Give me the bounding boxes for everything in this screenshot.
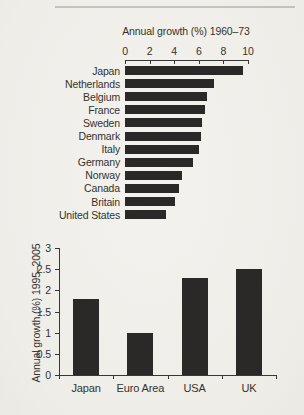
bottom-y-axis-tick — [55, 269, 59, 270]
top-chart-category-label: Canada — [0, 182, 120, 194]
bottom-chart-bar — [236, 269, 262, 375]
top-x-axis-tick — [199, 60, 200, 64]
top-chart-bar — [125, 171, 182, 180]
bottom-y-axis-tick — [55, 354, 59, 355]
bottom-y-axis-tick-label: 2 — [23, 284, 51, 296]
scan-artifact-line — [55, 6, 295, 8]
bottom-y-axis-tick-label: 0.5 — [23, 348, 51, 360]
top-chart-bar — [125, 118, 202, 127]
top-chart-category-label: Japan — [0, 65, 120, 77]
bottom-y-axis-tick-label: 2.5 — [23, 263, 51, 275]
top-chart-category-label: Britain — [0, 196, 120, 208]
top-x-axis-tick-label: 10 — [236, 45, 260, 57]
top-chart-category-label: Norway — [0, 169, 120, 181]
top-chart-bar — [125, 92, 207, 101]
top-x-axis-line — [125, 60, 248, 61]
bottom-chart-bar — [73, 299, 99, 375]
bottom-y-axis-tick-label: 0 — [23, 369, 51, 381]
top-chart-category-label: Italy — [0, 143, 120, 155]
top-chart-bar — [125, 210, 166, 219]
bottom-chart-bar — [182, 278, 208, 375]
bottom-chart-category-label: UK — [217, 382, 281, 394]
bottom-x-axis-tick — [168, 375, 169, 379]
top-chart-category-label: Sweden — [0, 117, 120, 129]
bottom-y-axis-tick-label: 1 — [23, 327, 51, 339]
bottom-x-axis-tick — [222, 375, 223, 379]
top-chart-bar — [125, 66, 243, 75]
top-x-axis-tick-label: 6 — [187, 45, 211, 57]
bottom-y-axis-tick-label: 3 — [23, 242, 51, 254]
top-chart-bar — [125, 197, 175, 206]
top-chart-category-label: Denmark — [0, 130, 120, 142]
top-chart-category-label: Germany — [0, 156, 120, 168]
top-x-axis-tick-label: 2 — [138, 45, 162, 57]
top-chart-bar — [125, 145, 199, 154]
top-chart-category-label: Netherlands — [0, 78, 120, 90]
bottom-y-axis-tick — [55, 248, 59, 249]
top-x-axis-tick — [223, 60, 224, 64]
top-x-axis-tick — [150, 60, 151, 64]
bottom-x-axis-tick — [59, 375, 60, 379]
top-chart-bar — [125, 158, 193, 167]
top-chart-bar — [125, 105, 205, 114]
bottom-y-axis-tick-label: 1.5 — [23, 306, 51, 318]
top-chart-title: Annual growth (%) 1960–73 — [64, 25, 304, 38]
bottom-x-axis-tick — [276, 375, 277, 379]
top-chart-category-label: United States — [0, 209, 120, 221]
top-x-axis-tick-label: 8 — [211, 45, 235, 57]
bottom-y-axis-line — [59, 248, 60, 376]
top-chart-bar — [125, 79, 214, 88]
growth-comparison-figure: Annual growth (%) 1960–73 Annual growth … — [0, 0, 304, 415]
bottom-y-axis-tick — [55, 312, 59, 313]
top-x-axis-tick-label: 4 — [162, 45, 186, 57]
bottom-x-axis-tick — [113, 375, 114, 379]
top-chart-bar — [125, 132, 201, 141]
top-x-axis-tick — [248, 60, 249, 64]
top-x-axis-tick — [174, 60, 175, 64]
top-x-axis-tick-label: 0 — [113, 45, 137, 57]
top-chart-category-label: Belgium — [0, 91, 120, 103]
top-x-axis-tick — [125, 60, 126, 64]
top-chart-bar — [125, 184, 179, 193]
bottom-chart-bar — [127, 333, 153, 375]
bottom-y-axis-tick — [55, 290, 59, 291]
bottom-y-axis-tick — [55, 333, 59, 334]
top-chart-category-label: France — [0, 104, 120, 116]
